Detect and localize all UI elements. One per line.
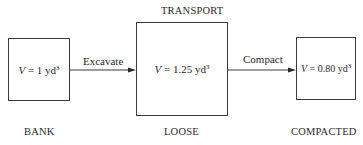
bank-label: BANK <box>24 126 55 137</box>
transport-label: TRANSPORT <box>161 5 223 16</box>
loose-volume: V = 1.25 yd3 <box>155 63 210 75</box>
equals: = <box>161 63 173 75</box>
volume-unit: yd <box>338 63 348 74</box>
compacted-label: COMPACTED <box>291 126 357 137</box>
equals: = <box>307 63 318 74</box>
bank-box: V = 1 yd3 <box>8 38 70 101</box>
volume-unit: yd <box>45 64 56 76</box>
arrow-compact <box>228 68 296 73</box>
loose-label: LOOSE <box>164 126 199 137</box>
volume-value: 1 <box>37 64 43 76</box>
volume-unit: yd <box>195 63 206 75</box>
volume-value: 1.25 <box>173 63 192 75</box>
volume-value: 0.80 <box>318 63 336 74</box>
compacted-volume: V = 0.80 yd3 <box>301 63 351 74</box>
arrow-excavate <box>70 68 136 73</box>
compact-label: Compact <box>243 53 283 65</box>
volume-exponent: 3 <box>348 62 352 70</box>
volume-exponent: 3 <box>56 64 60 72</box>
loose-box: V = 1.25 yd3 <box>136 22 228 116</box>
bank-volume: V = 1 yd3 <box>18 64 59 76</box>
excavate-label: Excavate <box>83 55 123 67</box>
volume-exponent: 3 <box>206 63 210 71</box>
compacted-box: V = 0.80 yd3 <box>296 37 356 100</box>
equals: = <box>25 64 37 76</box>
